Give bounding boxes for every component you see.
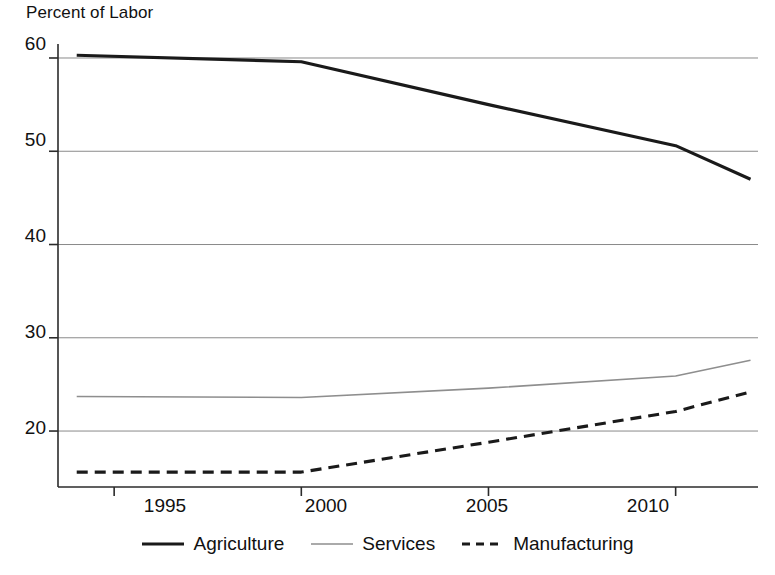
plot-area (0, 0, 775, 575)
dashed-line-icon (461, 537, 505, 551)
solid-thin-line-icon (310, 537, 354, 551)
line-chart: Percent of Labor 60 50 40 30 20 1995 200… (0, 0, 775, 575)
x-tick-marks-group (114, 487, 675, 496)
data-series-group (77, 55, 751, 472)
gridlines-group (58, 58, 758, 431)
legend-label-services: Services (362, 533, 435, 555)
legend-label-agriculture: Agriculture (193, 533, 284, 555)
legend-item-manufacturing[interactable]: Manufacturing (461, 533, 633, 555)
axes-group (58, 44, 758, 487)
solid-thick-line-icon (141, 537, 185, 551)
legend-item-services[interactable]: Services (310, 533, 435, 555)
y-tick-marks-group (49, 58, 58, 431)
legend-item-agriculture[interactable]: Agriculture (141, 533, 284, 555)
chart-legend: Agriculture Services Manufacturing (0, 533, 775, 555)
series-line-services (77, 360, 751, 397)
series-line-manufacturing (77, 392, 751, 472)
legend-label-manufacturing: Manufacturing (513, 533, 633, 555)
series-line-agriculture (77, 55, 751, 179)
